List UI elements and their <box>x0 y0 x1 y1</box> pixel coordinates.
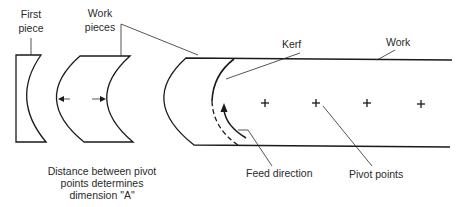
pivot-plus-icon <box>363 99 371 107</box>
kerf-leader <box>226 53 300 79</box>
caption: Distance between pivot points determines… <box>48 165 157 201</box>
caption-line2: points determines <box>61 177 144 189</box>
caption-line3: dimension "A" <box>69 189 135 201</box>
work-label: Work <box>386 36 411 48</box>
work-leader <box>377 50 395 60</box>
kerf-cut-line <box>212 59 234 101</box>
work-pieces-label-line2: pieces <box>85 21 115 33</box>
pivot-plus-icon <box>261 99 269 107</box>
pivot-points-label: Pivot points <box>349 168 403 180</box>
kerf-label: Kerf <box>282 38 301 50</box>
curved-cut-diagram: First piece Work pieces Kerf Work <box>0 0 464 207</box>
first-piece-label-line1: First <box>21 8 41 20</box>
dimension-arrow-right <box>92 96 106 102</box>
first-piece: First piece <box>16 8 46 142</box>
work-pieces-label-line1: Work <box>88 7 113 19</box>
pivot-points-leader <box>323 106 372 166</box>
caption-line1: Distance between pivot <box>48 165 157 177</box>
work-bar: Kerf Work <box>164 36 452 147</box>
pivot-plus-icon <box>312 99 320 107</box>
dimension-arrow-left <box>58 96 70 102</box>
feed-direction-arrow: Feed direction <box>221 103 313 179</box>
feed-direction-label: Feed direction <box>246 167 313 179</box>
work-pieces-leader <box>121 24 198 56</box>
pivot-plus-icon <box>417 100 425 108</box>
arrowhead-up-icon <box>221 103 228 112</box>
work-piece: Work pieces <box>56 7 198 142</box>
first-piece-label-line2: piece <box>18 22 43 34</box>
